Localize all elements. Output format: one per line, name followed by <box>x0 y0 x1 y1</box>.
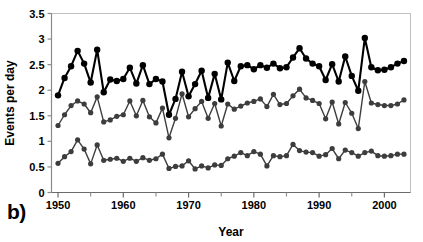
events-per-day-line-chart: 00.511.522.533.5195019601970198019902000… <box>0 0 423 242</box>
data-point-middle <box>212 101 217 106</box>
data-point-lower <box>258 152 263 157</box>
data-point-middle <box>121 112 126 117</box>
data-point-middle <box>264 104 269 109</box>
x-axis-title: Year <box>218 225 244 239</box>
data-point-lower <box>323 152 328 157</box>
data-point-upper <box>244 62 250 68</box>
data-point-lower <box>303 150 308 155</box>
data-point-lower <box>95 142 100 147</box>
data-point-lower <box>297 148 302 153</box>
data-point-middle <box>88 110 93 115</box>
data-point-upper <box>218 96 224 102</box>
data-point-upper <box>296 45 302 51</box>
data-point-lower <box>388 153 393 158</box>
data-point-middle <box>153 120 158 125</box>
data-point-upper <box>238 63 244 69</box>
data-point-upper <box>101 89 107 95</box>
data-point-upper <box>153 76 159 82</box>
data-point-lower <box>343 147 348 152</box>
data-point-upper <box>342 53 348 59</box>
data-point-middle <box>356 126 361 131</box>
data-point-middle <box>395 101 400 106</box>
data-point-upper <box>140 62 146 68</box>
data-point-upper <box>107 76 113 82</box>
data-point-middle <box>173 116 178 121</box>
data-point-upper <box>394 60 400 66</box>
data-point-lower <box>225 156 230 161</box>
data-point-lower <box>101 158 106 163</box>
data-point-middle <box>75 98 80 103</box>
data-point-lower <box>349 150 354 155</box>
data-point-middle <box>297 87 302 92</box>
y-axis-tick-label: 3.5 <box>29 8 44 20</box>
data-point-middle <box>336 121 341 126</box>
data-point-lower <box>127 156 132 161</box>
data-point-upper <box>257 62 263 68</box>
data-point-upper <box>368 64 374 70</box>
data-point-upper <box>120 76 126 82</box>
data-point-middle <box>369 100 374 105</box>
y-axis-tick-label: 0 <box>38 187 44 199</box>
data-point-middle <box>193 106 198 111</box>
data-point-middle <box>375 102 380 107</box>
data-point-upper <box>61 75 67 81</box>
data-point-middle <box>277 102 282 107</box>
data-point-middle <box>140 98 145 103</box>
data-point-middle <box>388 103 393 108</box>
data-point-middle <box>68 103 73 108</box>
data-point-middle <box>101 119 106 124</box>
data-point-upper <box>172 96 178 102</box>
data-point-middle <box>303 95 308 100</box>
data-point-lower <box>362 150 367 155</box>
data-point-middle <box>349 111 354 116</box>
data-point-middle <box>108 117 113 122</box>
data-point-upper <box>205 95 211 101</box>
data-point-lower <box>199 163 204 168</box>
data-point-upper <box>133 80 139 86</box>
data-point-upper <box>231 78 237 84</box>
data-point-lower <box>68 149 73 154</box>
data-point-upper <box>192 81 198 87</box>
data-point-middle <box>95 94 100 99</box>
data-point-middle <box>199 99 204 104</box>
data-point-upper <box>336 78 342 84</box>
data-point-middle <box>147 114 152 119</box>
data-point-lower <box>147 158 152 163</box>
data-point-upper <box>146 81 152 87</box>
data-point-lower <box>395 152 400 157</box>
data-point-upper <box>290 54 296 60</box>
data-point-middle <box>166 135 171 140</box>
data-point-upper <box>381 67 387 73</box>
data-point-middle <box>238 103 243 108</box>
data-point-middle <box>245 100 250 105</box>
data-point-middle <box>317 101 322 106</box>
x-axis-tick-label: 1970 <box>176 199 200 211</box>
y-axis-tick-label: 1 <box>38 135 44 147</box>
data-point-middle <box>290 93 295 98</box>
data-point-middle <box>401 97 406 102</box>
data-point-lower <box>212 162 217 167</box>
data-point-upper <box>388 64 394 70</box>
data-point-upper <box>127 65 133 71</box>
data-point-middle <box>271 92 276 97</box>
data-point-upper <box>81 60 87 66</box>
data-point-upper <box>375 67 381 73</box>
data-point-middle <box>362 79 367 84</box>
data-point-upper <box>225 59 231 65</box>
y-axis-tick-label: 2 <box>38 84 44 96</box>
data-point-lower <box>108 157 113 162</box>
data-point-upper <box>270 60 276 66</box>
data-point-lower <box>160 152 165 157</box>
data-point-upper <box>362 35 368 41</box>
data-point-upper <box>303 55 309 61</box>
data-point-lower <box>62 154 67 159</box>
data-point-upper <box>355 88 361 94</box>
data-point-upper <box>349 73 355 79</box>
data-point-upper <box>198 68 204 74</box>
data-point-lower <box>375 153 380 158</box>
data-point-lower <box>264 163 269 168</box>
data-point-upper <box>211 71 217 77</box>
data-point-lower <box>219 163 224 168</box>
data-point-middle <box>127 98 132 103</box>
data-point-lower <box>153 156 158 161</box>
